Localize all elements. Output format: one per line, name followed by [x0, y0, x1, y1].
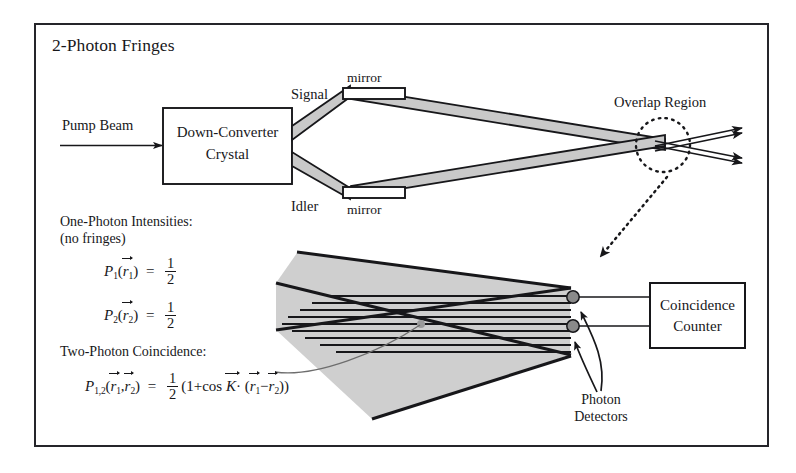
- eq-p12-minus: −: [260, 378, 268, 394]
- overlap-region-label: Overlap Region: [614, 94, 706, 110]
- figure-container: 2-Photon Fringes Pump Beam Down-Converte…: [0, 0, 796, 473]
- equation-p2: P2(r2) = 1 2: [104, 300, 179, 331]
- eq-p12-symbol: P: [85, 378, 94, 394]
- photon-detectors-label-line1: Photon: [556, 392, 646, 408]
- eq-p12-sub: 1,2: [94, 386, 105, 396]
- page-title: 2-Photon Fringes: [52, 36, 175, 56]
- eq-p12-rest-close: )): [279, 378, 289, 394]
- photon-detector-bottom: [567, 320, 579, 332]
- eq-p12-body-open: (1+cos: [181, 378, 226, 394]
- eq-p2-denominator: 2: [165, 315, 176, 331]
- eq-p12-arg2: r: [125, 378, 131, 395]
- eq-p2-fraction: 1 2: [165, 300, 176, 331]
- photon-detectors-label-line2: Detectors: [556, 409, 646, 425]
- eq-p12-fraction: 1 2: [167, 371, 178, 402]
- eq-p12-denominator: 2: [167, 386, 178, 402]
- mirror-top-label: mirror: [347, 70, 382, 85]
- crystal-label-line1: Down-Converter: [168, 124, 287, 141]
- one-photon-heading: One-Photon Intensities:: [60, 214, 193, 230]
- eq-p2-arg: r: [123, 307, 129, 324]
- coincidence-counter-label-line2: Counter: [651, 318, 744, 335]
- eq-p1-symbol: P: [104, 263, 113, 279]
- eq-p12-equals: =: [148, 378, 156, 394]
- pump-beam-label: Pump Beam: [62, 117, 133, 133]
- eq-p12-numerator: 1: [167, 371, 178, 386]
- eq-p1-arg: r: [123, 263, 129, 280]
- mirror-top: [343, 88, 405, 99]
- eq-p1-numerator: 1: [165, 256, 176, 271]
- idler-label: Idler: [291, 198, 318, 214]
- eq-p12-arg1: r: [110, 378, 116, 395]
- mirror-bottom-label: mirror: [347, 202, 382, 217]
- equation-p12: P1,2(r1,r2) = 1 2 (1+cos K· (r1−r2)): [85, 371, 289, 402]
- eq-p2-numerator: 1: [165, 300, 176, 315]
- eq-p1-denominator: 2: [165, 271, 176, 287]
- coincidence-counter-box: [650, 283, 745, 348]
- one-photon-subheading: (no fringes): [60, 231, 126, 247]
- equation-p1: P1(r1) = 1 2: [104, 256, 179, 287]
- eq-p2-symbol: P: [104, 307, 113, 323]
- eq-p12-rest-open: (: [241, 378, 250, 394]
- eq-p1-equals: =: [146, 263, 154, 279]
- signal-label: Signal: [291, 86, 328, 102]
- photon-detector-top: [567, 291, 579, 303]
- eq-p2-equals: =: [146, 307, 154, 323]
- eq-p1-fraction: 1 2: [165, 256, 176, 287]
- coincidence-counter-label-line1: Coincidence: [651, 297, 744, 314]
- two-photon-heading: Two-Photon Coincidence:: [60, 344, 206, 360]
- eq-p12-k: K: [226, 378, 236, 395]
- mirror-bottom: [343, 187, 405, 198]
- eq-p12-r1: r: [250, 378, 256, 395]
- eq-p12-r2: r: [269, 378, 275, 395]
- crystal-label-line2: Crystal: [168, 146, 287, 163]
